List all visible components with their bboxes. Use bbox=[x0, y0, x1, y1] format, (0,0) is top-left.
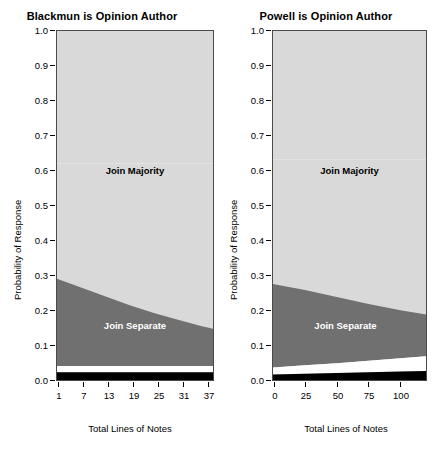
y-tick-label: 0.8 bbox=[18, 95, 48, 106]
region-label-join-majority: Join Majority bbox=[272, 165, 427, 176]
y-tick-label: 0.4 bbox=[18, 235, 48, 246]
x-tick-mark bbox=[337, 382, 338, 387]
figure-canvas: Blackmun is Opinion Author Probability o… bbox=[0, 0, 432, 454]
y-tick-label: 0.6 bbox=[234, 165, 264, 176]
y-tick-label: 0.8 bbox=[234, 95, 264, 106]
y-tick-mark bbox=[266, 380, 271, 381]
x-tick-label: 50 bbox=[323, 390, 353, 401]
y-tick-label: 0.5 bbox=[18, 200, 48, 211]
area-white-band bbox=[57, 366, 213, 372]
y-tick-mark bbox=[266, 30, 271, 31]
region-label-join-majority: Join Majority bbox=[56, 165, 214, 176]
y-axis-title-left: Probability of Response bbox=[12, 200, 23, 300]
y-tick-mark bbox=[266, 170, 271, 171]
faint-separator-line bbox=[273, 159, 426, 160]
y-tick-mark bbox=[266, 65, 271, 66]
y-tick-mark bbox=[266, 240, 271, 241]
x-tick-mark bbox=[400, 382, 401, 387]
x-tick-label: 75 bbox=[354, 390, 384, 401]
panel-title-blackmun: Blackmun is Opinion Author bbox=[0, 10, 210, 22]
x-tick-mark bbox=[274, 382, 275, 387]
y-tick-mark bbox=[266, 135, 271, 136]
y-tick-mark bbox=[50, 275, 55, 276]
y-tick-mark bbox=[266, 310, 271, 311]
x-tick-mark bbox=[108, 382, 109, 387]
x-tick-mark bbox=[58, 382, 59, 387]
x-tick-label: 0 bbox=[260, 390, 290, 401]
y-tick-label: 0.9 bbox=[18, 60, 48, 71]
y-tick-mark bbox=[50, 380, 55, 381]
y-tick-mark bbox=[266, 345, 271, 346]
y-tick-label: 0.1 bbox=[18, 340, 48, 351]
y-tick-label: 0.3 bbox=[18, 270, 48, 281]
x-tick-mark bbox=[305, 382, 306, 387]
area-black-band bbox=[57, 372, 213, 380]
y-tick-label: 0.4 bbox=[234, 235, 264, 246]
x-axis-title-left: Total Lines of Notes bbox=[22, 423, 238, 434]
y-tick-mark bbox=[50, 100, 55, 101]
y-tick-mark bbox=[266, 275, 271, 276]
faint-separator-line bbox=[57, 163, 213, 164]
y-tick-mark bbox=[50, 345, 55, 346]
y-tick-mark bbox=[50, 30, 55, 31]
y-tick-mark bbox=[50, 310, 55, 311]
y-tick-mark bbox=[50, 240, 55, 241]
x-tick-mark bbox=[83, 382, 84, 387]
x-axis-title-right: Total Lines of Notes bbox=[238, 423, 432, 434]
y-tick-label: 0.2 bbox=[234, 305, 264, 316]
y-axis-title-right: Probability of Response bbox=[228, 200, 239, 300]
y-tick-mark bbox=[50, 65, 55, 66]
y-tick-mark bbox=[50, 135, 55, 136]
x-tick-mark bbox=[183, 382, 184, 387]
y-tick-label: 0.5 bbox=[234, 200, 264, 211]
panel-title-powell: Powell is Opinion Author bbox=[218, 10, 432, 22]
y-tick-label: 0.1 bbox=[234, 340, 264, 351]
y-tick-mark bbox=[266, 205, 271, 206]
x-tick-mark bbox=[133, 382, 134, 387]
y-tick-label: 0.3 bbox=[234, 270, 264, 281]
y-tick-label: 0.7 bbox=[234, 130, 264, 141]
y-tick-label: 1.0 bbox=[234, 25, 264, 36]
region-label-join-separate: Join Separate bbox=[56, 320, 214, 331]
x-tick-label: 25 bbox=[291, 390, 321, 401]
y-tick-mark bbox=[50, 170, 55, 171]
x-tick-label: 100 bbox=[386, 390, 416, 401]
y-tick-mark bbox=[266, 100, 271, 101]
y-tick-label: 0.9 bbox=[234, 60, 264, 71]
y-tick-mark bbox=[50, 205, 55, 206]
y-tick-label: 0.0 bbox=[18, 375, 48, 386]
x-tick-mark bbox=[208, 382, 209, 387]
y-tick-label: 1.0 bbox=[18, 25, 48, 36]
y-tick-label: 0.6 bbox=[18, 165, 48, 176]
region-label-join-separate: Join Separate bbox=[268, 320, 423, 331]
x-tick-mark bbox=[368, 382, 369, 387]
x-tick-mark bbox=[158, 382, 159, 387]
y-tick-label: 0.2 bbox=[18, 305, 48, 316]
panel-powell: Powell is Opinion Author Probability of … bbox=[216, 0, 432, 454]
y-tick-label: 0.7 bbox=[18, 130, 48, 141]
panel-blackmun: Blackmun is Opinion Author Probability o… bbox=[0, 0, 216, 454]
y-tick-label: 0.0 bbox=[234, 375, 264, 386]
